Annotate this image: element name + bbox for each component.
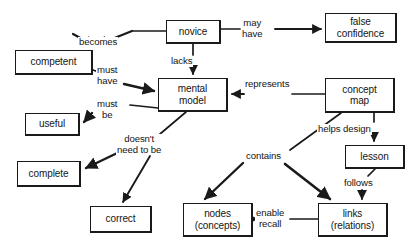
edge-doesnt-to-correct xyxy=(123,156,150,202)
edge-label-represents: represents xyxy=(244,79,290,90)
node-complete[interactable]: complete xyxy=(17,161,81,187)
node-novice-label: novice xyxy=(179,26,207,38)
edge-label-enable-recall: enable recall xyxy=(255,208,285,229)
node-links-relations[interactable]: links (relations) xyxy=(318,203,388,237)
edge-label-contains: contains xyxy=(245,151,282,162)
edge-label-must-have: must have xyxy=(96,65,118,86)
edge-label-may-have: may have xyxy=(241,18,263,39)
edge-contains-to-links xyxy=(285,164,330,199)
node-correct-label: correct xyxy=(106,213,136,225)
edge-contains-to-nodes xyxy=(205,163,243,199)
node-nodes-concepts[interactable]: nodes (concepts) xyxy=(183,203,253,237)
concept-map-canvas: novice false confidence competent mental… xyxy=(0,0,419,250)
node-complete-label: complete xyxy=(29,168,69,180)
node-competent[interactable]: competent xyxy=(15,50,93,75)
node-novice[interactable]: novice xyxy=(166,20,221,44)
node-concept-map-label: concept map xyxy=(342,84,376,107)
edge-mustbe-seg2 xyxy=(84,113,92,122)
node-useful-label: useful xyxy=(39,118,65,130)
edge-label-lacks: lacks xyxy=(170,56,193,67)
node-links-relations-label: links (relations) xyxy=(331,208,374,231)
edge-label-must-be: must be xyxy=(96,99,118,120)
node-false-confidence[interactable]: false confidence xyxy=(325,13,397,43)
edge-label-becomes: becomes xyxy=(78,37,118,48)
node-correct[interactable]: correct xyxy=(90,206,152,233)
node-lesson[interactable]: lesson xyxy=(345,145,405,169)
edge-mustbe-seg1 xyxy=(130,105,158,108)
node-mental-model-label: mental model xyxy=(178,83,207,106)
edge-label-follows: follows xyxy=(343,178,374,189)
node-lesson-label: lesson xyxy=(360,151,388,163)
edge-follows-seg1 xyxy=(368,169,375,176)
node-concept-map[interactable]: concept map xyxy=(325,78,395,113)
node-competent-label: competent xyxy=(31,56,77,68)
edge-label-helps-design: helps design xyxy=(317,124,372,135)
node-nodes-concepts-label: nodes (concepts) xyxy=(195,208,241,231)
edge-musthave-seg2 xyxy=(124,84,154,91)
edge-doesnt-stem xyxy=(160,112,186,134)
edge-label-doesnt-need-to-be: doesn't need to be xyxy=(116,134,162,155)
node-useful[interactable]: useful xyxy=(25,113,80,136)
node-false-confidence-label: false confidence xyxy=(337,16,384,39)
node-mental-model[interactable]: mental model xyxy=(158,78,228,112)
